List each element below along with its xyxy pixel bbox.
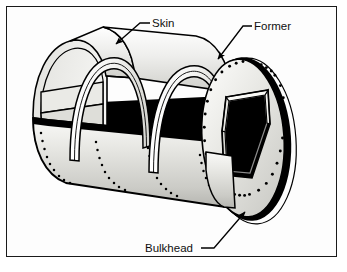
fuselage-diagram: Skin Former Bulkhead [0, 0, 347, 272]
callout-bulkhead: Bulkhead [145, 212, 245, 254]
figure-page: Skin Former Bulkhead [0, 0, 347, 272]
callout-former: Former [218, 20, 291, 59]
fuselage-assembly [33, 27, 302, 227]
label-former-text: Former [254, 20, 291, 32]
leader-line-former [218, 26, 252, 59]
label-bulkhead-text: Bulkhead [145, 242, 193, 254]
label-skin-text: Skin [152, 17, 174, 29]
